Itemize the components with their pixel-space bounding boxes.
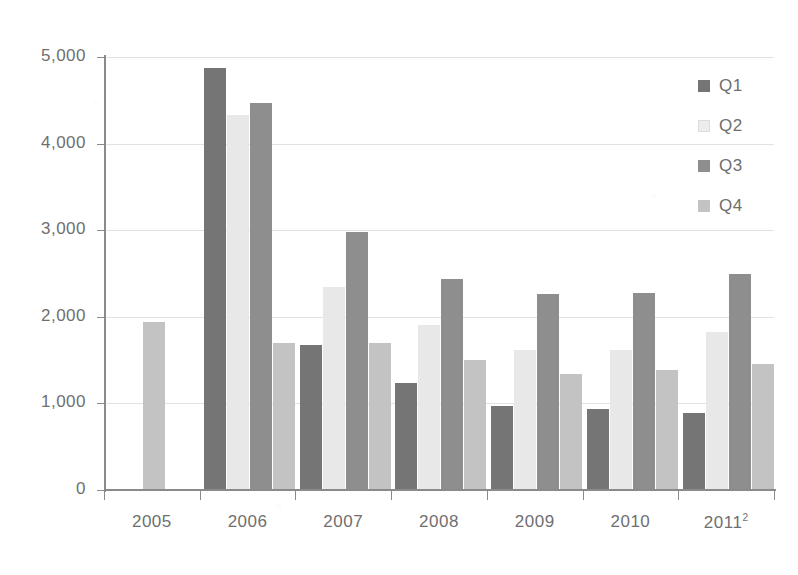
x-axis-tick [295,490,296,500]
bar-q2-2010[interactable] [610,350,632,490]
bar-q4-2007[interactable] [369,343,391,490]
bar-q1-2010[interactable] [587,409,609,490]
bar-q2-2007[interactable] [323,287,345,491]
legend-item-q2[interactable]: Q2 [698,106,793,146]
y-axis-tick [97,144,105,145]
x-axis-tick-label: 2005 [104,512,200,532]
bar-q3-2011[interactable] [729,274,751,491]
x-axis-line [104,489,776,491]
bar-group [487,57,583,490]
bar-group [583,57,679,490]
legend-swatch-q4-icon [698,200,710,212]
legend-item-q1[interactable]: Q1 [698,66,793,106]
x-axis-label-footnote: 2 [742,512,748,523]
bar-q4-2010[interactable] [656,370,678,490]
bar-group [295,57,391,490]
y-axis-tick [97,403,105,404]
x-axis-tick [774,490,775,500]
bar-q3-2006[interactable] [250,103,272,490]
bar-q4-2008[interactable] [464,360,486,490]
y-axis-line [104,55,106,492]
legend-swatch-q3-icon [698,160,710,172]
bar-q4-2005[interactable] [143,322,165,490]
x-axis-tick-label: 2007 [295,512,391,532]
x-axis-tick [104,490,105,500]
legend-item-q3[interactable]: Q3 [698,146,793,186]
bar-q4-2011[interactable] [752,364,774,490]
x-axis-tick [583,490,584,500]
bar-group [200,57,296,490]
y-axis-tick-label: 4,000 [41,133,86,153]
y-axis-tick-label: 2,000 [41,306,86,326]
bar-q3-2009[interactable] [537,294,559,490]
legend-label-q2: Q2 [719,116,743,136]
x-axis-tick-label: 20112 [678,512,774,533]
bar-q1-2008[interactable] [395,383,417,490]
bar-q2-2008[interactable] [418,325,440,490]
x-axis-tick-label: 2010 [583,512,679,532]
bar-q4-2009[interactable] [560,374,582,490]
legend-label-q4: Q4 [719,196,743,216]
bar-q2-2011[interactable] [706,332,728,490]
bar-group [104,57,200,490]
y-axis-tick [97,317,105,318]
legend-swatch-q1-icon [698,80,710,92]
bar-q2-2006[interactable] [227,115,249,490]
x-axis-tick [678,490,679,500]
x-axis-tick-label: 2006 [200,512,296,532]
bar-q1-2006[interactable] [204,68,226,490]
legend-item-q4[interactable]: Q4 [698,186,793,226]
y-axis-tick-label: 5,000 [41,46,86,66]
bar-group [391,57,487,490]
x-axis-tick [391,490,392,500]
bar-q1-2009[interactable] [491,406,513,490]
x-axis-tick [487,490,488,500]
bar-q4-2006[interactable] [273,343,295,490]
bar-q3-2010[interactable] [633,293,655,490]
y-axis-tick-label: 1,000 [41,392,86,412]
bar-q1-2007[interactable] [300,345,322,490]
legend-swatch-q2-icon [698,120,710,132]
bar-q3-2007[interactable] [346,232,368,490]
chart-legend: Q1 Q2 Q3 Q4 [698,66,793,226]
y-axis-tick-label: 0 [76,479,86,499]
bar-q3-2008[interactable] [441,279,463,490]
bar-q1-2011[interactable] [683,413,705,490]
legend-label-q3: Q3 [719,156,743,176]
y-axis-tick-label: 3,000 [41,219,86,239]
x-axis-tick-label: 2009 [487,512,583,532]
x-axis-tick [200,490,201,500]
y-axis-tick [97,230,105,231]
plot-area [104,57,774,490]
x-axis-tick-label: 2008 [391,512,487,532]
bar-chart: 01,0002,0003,0004,0005,000 2005200620072… [0,0,798,575]
bar-q2-2009[interactable] [514,350,536,490]
legend-label-q1: Q1 [719,76,743,96]
y-axis-tick [97,57,105,58]
